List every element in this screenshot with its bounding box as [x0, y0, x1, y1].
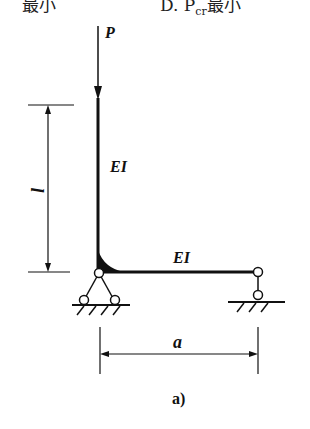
beam-ei-label: EI — [172, 249, 191, 266]
roller-support-icon — [228, 268, 285, 313]
load-label: P — [104, 24, 115, 41]
column-ei-label: EI — [109, 158, 128, 175]
height-dim-label: l — [28, 188, 48, 193]
frame-diagram: P EI EI l — [0, 0, 310, 429]
span-dim-label: a — [173, 332, 182, 352]
figure-caption: a) — [172, 390, 185, 408]
load-arrow-icon — [94, 26, 102, 100]
pin-support-icon — [72, 269, 130, 316]
